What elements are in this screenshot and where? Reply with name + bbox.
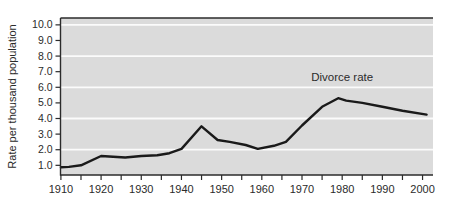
x-tick-label: 1930 — [129, 183, 153, 195]
x-tick-label: 1920 — [89, 183, 113, 195]
x-tick-label: 1970 — [290, 183, 314, 195]
x-tick-label: 1940 — [169, 183, 193, 195]
y-tick-label: 3.0 — [38, 128, 53, 140]
series-annotation: Divorce rate — [311, 71, 373, 83]
x-tick-label: 2000 — [410, 183, 434, 195]
x-tick-label: 1990 — [370, 183, 394, 195]
y-tick-label: 4.0 — [38, 112, 53, 124]
y-axis-title: Rate per thousand population — [6, 24, 18, 168]
x-tick-label: 1910 — [49, 183, 73, 195]
x-tick-label: 1950 — [209, 183, 233, 195]
y-tick-label: 6.0 — [38, 81, 53, 93]
chart-svg: 1.02.03.04.05.06.07.08.09.010.0191019201… — [0, 0, 449, 217]
y-tick-label: 9.0 — [38, 34, 53, 46]
y-tick-label: 8.0 — [38, 50, 53, 62]
divorce-rate-chart: 1.02.03.04.05.06.07.08.09.010.0191019201… — [0, 0, 449, 217]
y-tick-label: 10.0 — [32, 18, 53, 30]
y-tick-label: 1.0 — [38, 159, 53, 171]
x-tick-label: 1980 — [330, 183, 354, 195]
x-tick-label: 1960 — [250, 183, 274, 195]
y-tick-label: 2.0 — [38, 143, 53, 155]
y-tick-label: 7.0 — [38, 65, 53, 77]
plot-area — [61, 18, 434, 175]
y-tick-label: 5.0 — [38, 96, 53, 108]
